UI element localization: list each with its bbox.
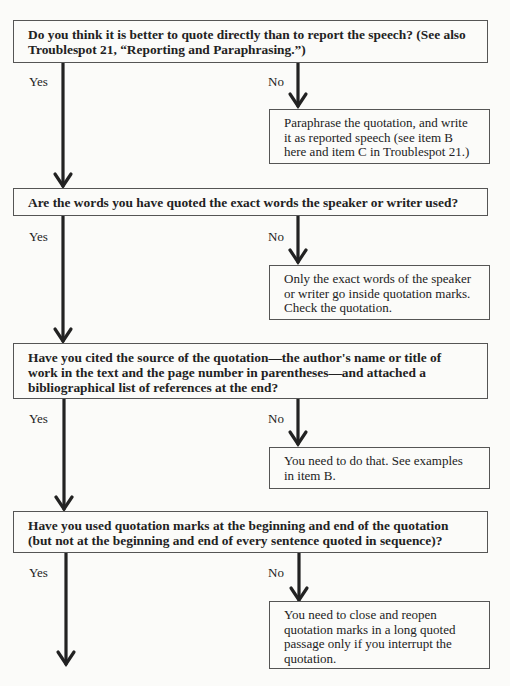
- question-box-3: Have you cited the source of the quotati…: [13, 343, 488, 399]
- question-text-3: Have you cited the source of the quotati…: [28, 350, 441, 395]
- action-text-2: Only the exact words of the speaker or w…: [284, 271, 471, 315]
- no-label-4: No: [268, 565, 284, 581]
- question-box-4: Have you used quotation marks at the beg…: [13, 511, 488, 553]
- action-box-3: You need to do that. See examples in ite…: [269, 447, 490, 489]
- question-text-4: Have you used quotation marks at the beg…: [28, 518, 448, 548]
- no-label-3: No: [268, 411, 284, 427]
- action-box-2: Only the exact words of the speaker or w…: [269, 265, 490, 320]
- yes-label-2: Yes: [29, 229, 48, 245]
- yes-label-4: Yes: [29, 565, 48, 581]
- action-box-1: Paraphrase the quotation, and write it a…: [269, 109, 490, 164]
- yes-label-1: Yes: [29, 74, 48, 90]
- question-box-2: Are the words you have quoted the exact …: [13, 188, 488, 216]
- yes-label-3: Yes: [29, 411, 48, 427]
- action-text-1: Paraphrase the quotation, and write it a…: [284, 115, 469, 159]
- action-text-3: You need to do that. See examples in ite…: [284, 453, 463, 483]
- question-text-2: Are the words you have quoted the exact …: [28, 195, 458, 210]
- no-label-1: No: [268, 74, 284, 90]
- question-box-1: Do you think it is better to quote direc…: [13, 20, 488, 63]
- question-text-1: Do you think it is better to quote direc…: [28, 27, 466, 57]
- action-box-4: You need to close and reopen quotation m…: [269, 601, 490, 669]
- action-text-4: You need to close and reopen quotation m…: [284, 607, 456, 666]
- no-label-2: No: [268, 229, 284, 245]
